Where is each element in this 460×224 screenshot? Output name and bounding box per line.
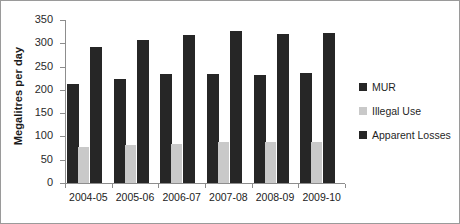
y-tick-label: 0 <box>47 176 53 188</box>
y-tick-label: 350 <box>35 13 53 25</box>
x-tick <box>158 184 159 188</box>
y-axis-title: Megalitres per day <box>7 1 29 191</box>
legend-label: Apparent Losses <box>372 129 451 141</box>
bar-illegal-use <box>218 142 229 183</box>
legend-swatch-icon <box>359 107 367 115</box>
legend-label: Illegal Use <box>372 105 421 117</box>
bar-illegal-use <box>78 147 89 183</box>
chart-legend: MURIllegal UseApparent Losses <box>359 81 457 153</box>
bar-illegal-use <box>125 145 136 183</box>
bar-apparent-losses <box>90 47 102 183</box>
bar-group <box>158 20 205 183</box>
bar-group <box>252 20 299 183</box>
x-axis-label: 2006-07 <box>158 191 205 203</box>
bar-chart: Megalitres per day 050100150200250300350… <box>0 0 460 224</box>
y-tick-label: 250 <box>35 60 53 72</box>
x-tick <box>205 184 206 188</box>
x-tick <box>65 184 66 188</box>
bar-illegal-use <box>171 144 182 183</box>
x-tick <box>298 184 299 188</box>
y-tick-label: 200 <box>35 83 53 95</box>
x-axis-label: 2008-09 <box>252 191 299 203</box>
x-axis-label: 2005-06 <box>112 191 159 203</box>
bar-group <box>112 20 159 183</box>
legend-item[interactable]: Apparent Losses <box>359 129 457 141</box>
bar-apparent-losses <box>323 33 335 183</box>
x-axis-label: 2009-10 <box>298 191 345 203</box>
y-axis-title-text: Megalitres per day <box>12 47 24 145</box>
bar-apparent-losses <box>183 35 195 183</box>
y-tick-label: 100 <box>35 129 53 141</box>
y-tick-label: 300 <box>35 36 53 48</box>
legend-item[interactable]: Illegal Use <box>359 105 457 117</box>
y-tick-label: 50 <box>41 153 53 165</box>
x-axis-label: 2007-08 <box>205 191 252 203</box>
legend-swatch-icon <box>359 83 367 91</box>
x-tick <box>112 184 113 188</box>
x-tick <box>252 184 253 188</box>
bar-group <box>65 20 112 183</box>
legend-swatch-icon <box>359 131 367 139</box>
legend-item[interactable]: MUR <box>359 81 457 93</box>
bar-group <box>298 20 345 183</box>
bar-apparent-losses <box>230 31 242 183</box>
x-tick <box>345 184 346 188</box>
x-axis-label: 2004-05 <box>65 191 112 203</box>
y-tick-label: 150 <box>35 106 53 118</box>
bar-group <box>205 20 252 183</box>
bar-illegal-use <box>311 142 322 183</box>
bar-apparent-losses <box>277 34 289 183</box>
bar-apparent-losses <box>137 40 149 183</box>
bar-illegal-use <box>265 142 276 183</box>
plot-area: 050100150200250300350 <box>65 20 345 184</box>
legend-label: MUR <box>372 81 396 93</box>
